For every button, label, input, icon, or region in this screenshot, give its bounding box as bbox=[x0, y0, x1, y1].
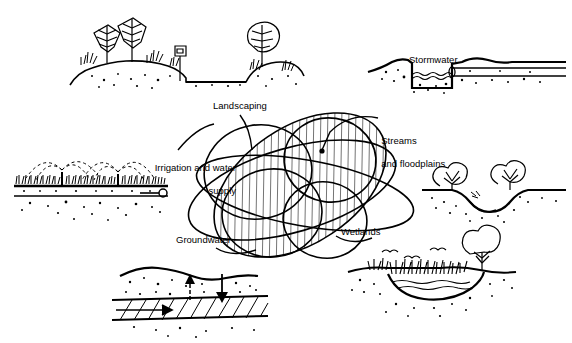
label-streams-line2: and floodplains bbox=[381, 158, 445, 169]
diagram-svg bbox=[0, 0, 572, 343]
label-irrigation-supply: Irrigation and water supply bbox=[136, 150, 236, 196]
label-streams-floodplains: Streams and floodplains bbox=[376, 123, 445, 169]
label-landscaping: Landscaping bbox=[213, 100, 267, 112]
figure-canvas: Landscaping Streams and floodplains Irri… bbox=[0, 0, 572, 343]
leader-irrigation bbox=[178, 124, 214, 150]
wetlands-scene bbox=[348, 225, 516, 317]
leader-landscaping bbox=[240, 115, 252, 150]
groundwater-scene bbox=[112, 268, 268, 338]
label-stormwater: Stormwater bbox=[409, 54, 458, 66]
label-irrigation-line2: supply bbox=[209, 185, 236, 196]
label-irrigation-line1: Irrigation and water bbox=[155, 162, 236, 173]
streams-scene bbox=[422, 161, 566, 223]
label-groundwater: Groundwater bbox=[176, 234, 231, 246]
landscaping-scene bbox=[70, 18, 304, 89]
leader-dot-streams bbox=[319, 148, 324, 153]
label-streams-line1: Streams bbox=[381, 135, 416, 146]
label-wetlands: Wetlands bbox=[341, 226, 380, 238]
stormwater-scene bbox=[368, 58, 566, 94]
